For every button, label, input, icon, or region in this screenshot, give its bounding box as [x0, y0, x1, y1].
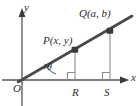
foot-label-r: R [72, 87, 79, 98]
angle-label-theta: θ [47, 62, 52, 72]
foot-label-s: S [104, 87, 110, 98]
right-angle-marker-r [68, 73, 76, 81]
point-marker-q [107, 28, 114, 34]
geometry-figure: y x O P(x, y) Q(a, b) R S θ [0, 0, 140, 106]
point-label-p: P(x, y) [43, 35, 72, 46]
y-axis-label: y [24, 2, 29, 13]
figure-canvas [0, 0, 140, 106]
point-marker-p [72, 47, 79, 53]
origin-label: O [13, 83, 21, 94]
x-axis-label: x [131, 72, 136, 83]
right-angle-marker-s [103, 73, 111, 81]
point-label-q: Q(a, b) [79, 8, 111, 19]
x-axis-arrowhead [120, 77, 129, 84]
